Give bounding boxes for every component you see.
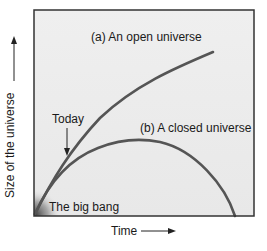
- closed-universe-label: (b) A closed universe: [140, 122, 251, 134]
- x-axis-label: Time: [111, 225, 137, 237]
- x-axis-arrow-head-icon: [168, 228, 176, 234]
- y-axis-label: Size of the universe: [4, 93, 16, 198]
- today-label: Today: [52, 113, 84, 125]
- y-axis-arrow-head-icon: [11, 36, 17, 44]
- open-universe-label: (a) An open universe: [91, 31, 202, 43]
- big-bang-label: The big bang: [49, 201, 119, 213]
- universe-expansion-diagram: (a) An open universe (b) A closed univer…: [0, 0, 267, 251]
